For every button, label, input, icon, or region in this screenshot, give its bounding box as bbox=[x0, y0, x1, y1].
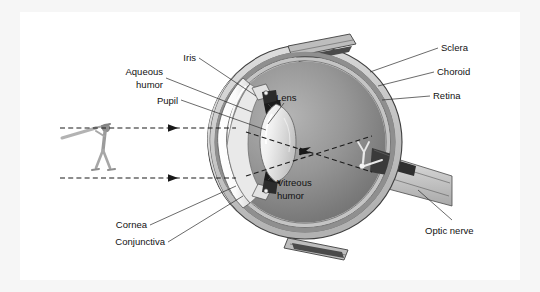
label-retina: Retina bbox=[433, 90, 461, 101]
label-vitreous-humor-line1: Vitreous bbox=[277, 177, 312, 188]
label-choroid: Choroid bbox=[437, 66, 470, 77]
label-aqueous-humor-line2: humor bbox=[136, 79, 163, 90]
label-vitreous-humor-line2: humor bbox=[277, 190, 304, 201]
extraocular-muscle-bottom bbox=[284, 238, 348, 260]
label-lens: Lens bbox=[276, 92, 297, 103]
label-optic-nerve: Optic nerve bbox=[425, 225, 474, 236]
diagram-stage: Iris Aqueous humor Pupil Lens Vitreous h… bbox=[0, 0, 540, 292]
label-iris: Iris bbox=[183, 52, 196, 63]
eye-diagram-svg: Iris Aqueous humor Pupil Lens Vitreous h… bbox=[0, 0, 540, 292]
label-sclera: Sclera bbox=[441, 42, 469, 53]
label-conjunctiva: Conjunctiva bbox=[115, 236, 165, 247]
label-pupil: Pupil bbox=[157, 95, 178, 106]
label-aqueous-humor-line1: Aqueous bbox=[125, 66, 163, 77]
label-cornea: Cornea bbox=[116, 219, 148, 230]
figure-frame: Iris Aqueous humor Pupil Lens Vitreous h… bbox=[0, 0, 540, 292]
object-batter-figure bbox=[62, 124, 115, 170]
